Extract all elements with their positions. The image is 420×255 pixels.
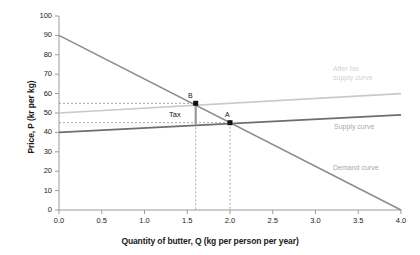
x-tick-label-0-5: 0.5 bbox=[87, 216, 117, 225]
x-tick-label-2-0: 2.0 bbox=[215, 216, 245, 225]
x-tick-label-4-0: 4.0 bbox=[386, 216, 416, 225]
x-tick-label-0-0: 0.0 bbox=[44, 216, 74, 225]
after-tax-supply-curve bbox=[59, 94, 401, 113]
x-tick-label-3-0: 3.0 bbox=[301, 216, 331, 225]
chart-container: 100 90 80 70 60 50 40 30 20 10 0 0.0 0.5… bbox=[0, 0, 420, 255]
x-tick-label-2-5: 2.5 bbox=[258, 216, 288, 225]
after-tax-supply-curve-label-line2: supply curve bbox=[333, 73, 372, 82]
x-axis-title: Quantity of butter, Q (kg per person per… bbox=[0, 236, 420, 246]
x-tick-label-3-5: 3.5 bbox=[343, 216, 373, 225]
x-tick-label-1-5: 1.5 bbox=[172, 216, 202, 225]
x-tick-label-1-0: 1.0 bbox=[130, 216, 160, 225]
guide-lines-horizontal bbox=[59, 103, 230, 122]
y-axis-title: Price, P (kr per kg) bbox=[26, 37, 36, 197]
point-b-label: B bbox=[188, 92, 193, 99]
y-tick-label-0: 0 bbox=[26, 205, 52, 214]
y-tick-label-100: 100 bbox=[26, 11, 52, 20]
point-a-marker bbox=[228, 120, 233, 125]
x-axis-ticks bbox=[59, 210, 401, 214]
supply-curve-label: Supply curve bbox=[334, 122, 374, 131]
point-b-marker bbox=[193, 101, 198, 106]
tax-label: Tax bbox=[169, 110, 181, 119]
y-axis-ticks bbox=[55, 16, 59, 210]
demand-curve-label: Demand curve bbox=[333, 163, 379, 172]
after-tax-supply-curve-label-line1: After tax bbox=[333, 64, 359, 73]
point-a-label: A bbox=[225, 111, 230, 118]
